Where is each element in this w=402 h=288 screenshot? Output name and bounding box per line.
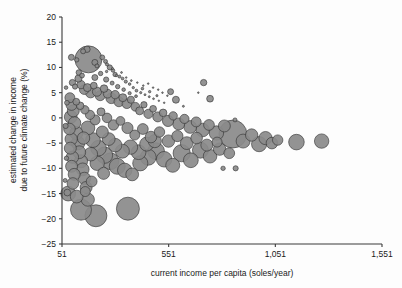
bubble-point <box>64 142 76 154</box>
bubble-point <box>110 81 114 85</box>
bubble-point <box>182 105 184 107</box>
bubble-point <box>132 86 134 88</box>
bubble-point <box>130 80 132 82</box>
bubble-point <box>204 120 215 131</box>
bubble-point <box>125 77 127 79</box>
bubble-point <box>116 197 139 220</box>
bubble-point <box>144 94 146 96</box>
bubble-point <box>147 83 149 85</box>
x-tick-label: 1,551 <box>371 249 393 259</box>
bubble-point <box>105 63 108 66</box>
bubble-point <box>105 70 107 72</box>
bubble-point <box>68 54 74 60</box>
bubble-point <box>136 107 144 115</box>
y-tick-label: −20 <box>42 214 57 224</box>
bubble-point <box>233 118 237 122</box>
bubble-point <box>218 120 230 132</box>
x-tick-label: 551 <box>162 249 176 259</box>
bubble-point <box>142 85 144 87</box>
bubble-point <box>158 100 160 102</box>
bubble-point <box>135 89 138 92</box>
x-tick-group: 515511,0511,551 <box>57 244 393 259</box>
bubble-point <box>75 58 79 62</box>
bubble-point <box>90 82 97 89</box>
bubble-point <box>121 72 123 74</box>
bubble-point <box>207 95 214 102</box>
bubble-point <box>135 95 138 98</box>
bubble-point <box>191 117 201 127</box>
bubble-point <box>122 88 126 92</box>
bubble-point <box>141 87 144 90</box>
bubble-point <box>157 89 159 91</box>
y-tick-label: −15 <box>42 189 57 199</box>
bubble-point <box>112 67 114 69</box>
bubble-point <box>172 130 183 141</box>
bubble-point <box>152 87 154 89</box>
bubble-point <box>116 117 125 126</box>
bubble-point <box>96 126 108 138</box>
bubble-point <box>63 123 68 128</box>
plot-canvas: 20151050−5−10−15−20−25 515511,0511,551 c… <box>0 0 402 288</box>
bubble-point <box>245 129 257 141</box>
bubble-series <box>61 46 329 227</box>
bubble-point <box>80 73 85 78</box>
bubble-point <box>104 77 109 82</box>
bubble-point <box>77 132 89 144</box>
bubble-point <box>98 167 110 179</box>
y-tick-label: 0 <box>51 113 56 123</box>
bubble-point <box>212 137 222 147</box>
bubble-point <box>64 86 68 90</box>
bubble-point <box>224 148 235 159</box>
bubble-point <box>97 108 105 116</box>
bubble-point <box>115 74 117 76</box>
bubble-point <box>289 134 305 150</box>
bubble-point <box>314 134 328 148</box>
bubble-point <box>169 112 177 120</box>
bubble-point <box>92 75 98 81</box>
y-tick-label: −25 <box>42 239 57 249</box>
bubble-point <box>159 109 167 117</box>
bubble-point <box>98 71 102 75</box>
y-tick-label: 15 <box>47 37 57 47</box>
bubble-point <box>86 176 97 187</box>
bubble-point <box>140 92 142 94</box>
bubble-point <box>272 135 282 145</box>
y-axis-title-line1: estimated change in income <box>8 77 18 183</box>
bubble-point <box>81 49 86 54</box>
bubble-point <box>115 84 119 88</box>
bubble-point <box>180 114 189 123</box>
bubble-point <box>153 98 155 100</box>
bubble-point <box>201 139 213 151</box>
bubble-point <box>121 77 124 80</box>
bubble-point <box>162 92 164 94</box>
bubble-point <box>119 94 127 102</box>
bubble-point <box>72 84 77 89</box>
bubble-chart-figure: 20151050−5−10−15−20−25 515511,0511,551 c… <box>0 0 402 288</box>
bubble-point <box>150 105 157 112</box>
bubble-point <box>130 130 140 140</box>
bubble-point <box>100 85 108 93</box>
bubble-point <box>126 168 139 181</box>
y-axis-title-line2: due to future climate change (%) <box>19 68 29 191</box>
bubble-point <box>65 100 70 105</box>
bubble-point <box>167 95 169 97</box>
x-axis-title: current income per capita (soles/year) <box>151 268 294 278</box>
bubble-point <box>221 166 225 170</box>
bubble-point <box>141 102 147 108</box>
y-tick-group: 20151050−5−10−15−20−25 <box>42 12 62 249</box>
y-tick-label: −10 <box>42 163 57 173</box>
bubble-point <box>154 127 164 137</box>
bubble-point <box>127 96 134 103</box>
bubble-point <box>100 55 105 60</box>
bubble-point <box>172 96 179 103</box>
bubble-point <box>118 75 121 78</box>
bubble-point <box>156 95 158 97</box>
bubble-point <box>183 153 198 168</box>
y-tick-label: 20 <box>47 12 57 22</box>
x-tick-label: 1,051 <box>265 249 287 259</box>
bubble-point <box>191 132 203 144</box>
bubble-point <box>163 102 165 104</box>
bubble-point <box>73 98 80 105</box>
y-tick-label: 5 <box>51 88 56 98</box>
bubble-point <box>64 156 68 160</box>
